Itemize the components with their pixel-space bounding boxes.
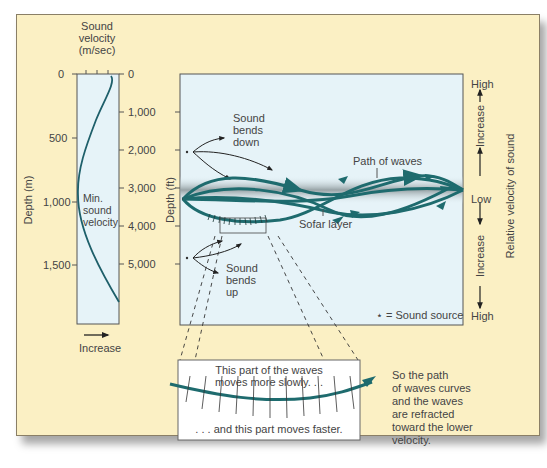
fast-part-text: . . . and this part moves faster. [178,423,360,435]
bends-down-label: Sound bends down [233,112,265,148]
bends-up-line: bends [226,274,258,286]
depth-m-tick: 500 [49,132,67,144]
scale-increase-bottom: Increase [474,228,486,284]
scale-high-top: High [471,78,494,90]
min-velocity-label: Min. sound velocity [83,192,118,228]
min-velocity-line: Min. [83,192,118,204]
bends-up-line: up [226,286,258,298]
depth-ft-tick: 1,000 [128,106,156,118]
velocity-title-line: Sound [62,20,132,32]
bends-down-line: down [233,136,265,148]
depth-m-tick: 0 [58,68,64,80]
depth-ft-tick: 2,000 [128,144,156,156]
conclusion-line: and the waves [392,395,473,408]
conclusion-line: velocity. [392,434,473,447]
scale-increase-top: Increase [474,98,486,154]
slow-part-line: moves more slowly. . . [178,376,360,388]
depth-ft-tick: 0 [128,68,134,80]
bends-up-label: Sound bends up [226,262,258,298]
sound-source-legend: ⋆ = Sound source [376,309,463,321]
velocity-title-line: velocity [62,32,132,44]
min-velocity-line: velocity [83,216,118,228]
slow-part-text: This part of the waves moves more slowly… [178,364,360,388]
scale-high-bottom: High [471,310,494,322]
sofar-layer-label: Sofar layer [299,218,352,230]
depth-ft-tick: 5,000 [128,258,156,270]
depth-m-label: Depth (m) [22,170,34,230]
scale-low: Low [471,193,491,205]
depth-m-tick: 1,500 [43,259,71,271]
increase-label: Increase [79,342,121,354]
bends-down-line: Sound [233,112,265,124]
relative-velocity-label: Relative velocity of sound [504,126,516,266]
depth-ft-tick: 3,000 [128,182,156,194]
slow-part-line: This part of the waves [178,364,360,376]
bends-up-line: Sound [226,262,258,274]
depth-m-tick: 1,000 [43,196,71,208]
path-of-waves-label: Path of waves [353,155,422,167]
velocity-title: Sound velocity (m/sec) [62,20,132,56]
conclusion-line: of waves curves [392,382,473,395]
conclusion-text: So the path of waves curves and the wave… [392,369,473,447]
depth-ft-tick: 4,000 [128,220,156,232]
conclusion-line: So the path [392,369,473,382]
bends-down-line: bends [233,124,265,136]
velocity-title-line: (m/sec) [62,44,132,56]
conclusion-line: are refracted [392,408,473,421]
depth-ft-label: Depth (ft) [164,170,176,230]
min-velocity-line: sound [83,204,118,216]
conclusion-line: toward the lower [392,421,473,434]
